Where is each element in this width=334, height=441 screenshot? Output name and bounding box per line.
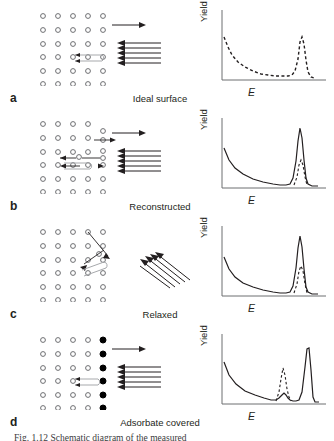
y-axis-label-a: Yield [199, 1, 209, 22]
plot-svg-a [200, 8, 328, 94]
y-axis-label-b: Yield [199, 109, 209, 130]
lattice-svg-b [38, 118, 116, 194]
plot-svg-d [200, 332, 328, 418]
panel-label-b: b [10, 200, 17, 212]
lattice-svg-c [38, 226, 116, 302]
panel-caption-a: Ideal surface [95, 94, 225, 104]
displaced-atoms-b [101, 129, 106, 168]
panel-caption-c: Relaxed [95, 310, 225, 320]
lattice-diagram-d [38, 334, 116, 410]
lattice-svg-d [38, 334, 116, 410]
panel-b: Yield E b Reconstructed [0, 110, 334, 214]
y-axis-label-c: Yield [199, 217, 209, 238]
lattice-diagram-c [38, 226, 116, 302]
panel-caption-d: Adsorbate covered [95, 418, 225, 428]
x-axis-label-a: E [248, 87, 255, 98]
incident-beam-arrow-a [112, 20, 146, 30]
panel-label-c: c [10, 308, 17, 320]
plot-svg-b [200, 116, 328, 202]
figure-caption: Fig. 1.12 Schematic diagram of the measu… [14, 432, 330, 441]
panel-label-a: a [10, 92, 17, 104]
plot-svg-c [200, 224, 328, 310]
x-axis-label-c: E [248, 303, 255, 314]
x-axis-label-b: E [248, 195, 255, 206]
lattice-diagram-b [38, 118, 116, 194]
adsorbate-atoms-d [100, 337, 106, 410]
panel-a: Yield E a Ideal surface [0, 2, 334, 106]
outgoing-beam-bundle-d [117, 364, 161, 390]
panel-caption-b: Reconstructed [95, 202, 225, 212]
incident-beam-arrow-d [112, 344, 146, 354]
x-axis-label-d: E [248, 411, 255, 422]
curve-reconstructed-b [224, 128, 318, 186]
y-axis-label-d: Yield [199, 325, 209, 346]
yield-vs-energy-plot-b: Yield E [200, 116, 328, 202]
yield-vs-energy-plot-c: Yield E [200, 224, 328, 310]
incident-beam-arrow-b [112, 128, 146, 138]
panel-label-d: d [10, 416, 17, 428]
curve-ideal-reference-d [276, 368, 291, 401]
lattice-svg-a [38, 10, 116, 86]
yield-vs-energy-plot-a: Yield E [200, 8, 328, 94]
curve-ideal-a [224, 37, 314, 78]
figure-surface-scattering: Yield E a Ideal surface [0, 0, 334, 441]
outgoing-beam-bundle-a [117, 40, 161, 66]
panel-d: Yield E d Adsorbate covered [0, 326, 334, 430]
curve-relaxed-c [224, 236, 318, 294]
lattice-diagram-a [38, 10, 116, 86]
outgoing-beam-bundle-b [117, 148, 161, 174]
outgoing-beam-bundle-c [140, 254, 190, 288]
yield-vs-energy-plot-d: Yield E [200, 332, 328, 418]
curve-adsorbate-d [224, 348, 319, 402]
panel-c: Yield E c Relaxed [0, 218, 334, 322]
